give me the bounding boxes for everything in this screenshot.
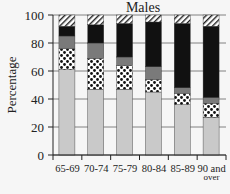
bar-segment — [59, 49, 75, 70]
x-tick-label: 75-79 — [113, 163, 138, 174]
bar-segment — [88, 25, 104, 43]
bar-segment — [145, 67, 161, 80]
bar-segment — [174, 88, 190, 94]
bar-segment — [117, 57, 133, 65]
bar-segment — [59, 70, 75, 155]
bar-segment — [88, 58, 104, 89]
bar-segment — [145, 22, 161, 67]
x-tick-label: 80-84 — [142, 163, 167, 174]
x-tick-label: over — [204, 172, 220, 182]
bar-segment — [203, 103, 219, 117]
bar-segment — [59, 15, 75, 26]
bar-segment — [117, 89, 133, 155]
bar-segment — [203, 15, 219, 26]
y-axis-label: Percentage — [4, 56, 19, 113]
bar-segment — [174, 93, 190, 104]
bar-segment — [88, 89, 104, 155]
y-tick-label: 0 — [38, 148, 45, 163]
bar-segment — [59, 36, 75, 49]
bar-segment — [174, 15, 190, 23]
x-tick-label: 85-89 — [171, 163, 196, 174]
bar-segment — [59, 26, 75, 36]
stacked-bar-chart: 02040608010065-6970-7475-7980-8485-8990 … — [0, 0, 230, 194]
chart-title: Males — [126, 0, 160, 15]
gridlines — [53, 15, 226, 155]
bar-segment — [145, 15, 161, 22]
bar-segment — [174, 23, 190, 87]
bar-segment — [145, 79, 161, 92]
y-tick-label: 80 — [31, 36, 44, 51]
y-tick-label: 20 — [31, 120, 44, 135]
bar-segment — [117, 15, 133, 23]
x-tick-label: 70-74 — [84, 163, 109, 174]
bar-segment — [88, 43, 104, 58]
x-tick-label: 65-69 — [55, 163, 80, 174]
bar-segment — [174, 105, 190, 155]
bar-segment — [203, 26, 219, 97]
bar-segment — [203, 117, 219, 155]
bars — [59, 15, 219, 155]
bar-segment — [117, 65, 133, 89]
bar-segment — [88, 15, 104, 25]
y-tick-label: 40 — [31, 92, 44, 107]
bar-segment — [117, 23, 133, 57]
y-tick-label: 60 — [31, 64, 44, 79]
bar-segment — [145, 92, 161, 155]
y-tick-label: 100 — [25, 8, 45, 23]
bar-segment — [203, 98, 219, 104]
